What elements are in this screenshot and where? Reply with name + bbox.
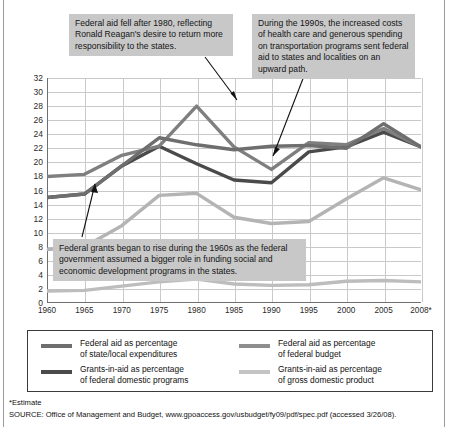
annotation-reagan: Federal aid fell after 1980, reflecting … bbox=[69, 14, 233, 56]
chart-page: PERCENTAGE 02468101214161820222426283032… bbox=[0, 0, 449, 427]
chart-legend: Federal aid as percentage of state/local… bbox=[27, 330, 433, 392]
legend-item: Federal aid as percentage of state/local… bbox=[41, 340, 237, 364]
page-frame-left-rule bbox=[3, 0, 4, 427]
legend-label-line2: of gross domestic product bbox=[278, 375, 374, 385]
y-axis-tick-label: 28 bbox=[9, 102, 43, 111]
y-axis-tick-label: 4 bbox=[9, 271, 43, 280]
y-axis-tick-label: 20 bbox=[9, 158, 43, 167]
y-axis-tick-label: 6 bbox=[9, 257, 43, 266]
legend-label-gdp: Grants-in-aid as percentage of gross dom… bbox=[278, 364, 382, 385]
line-chart-figure: PERCENTAGE 02468101214161820222426283032… bbox=[9, 4, 440, 326]
legend-label-line1: Federal aid as percentage bbox=[80, 338, 177, 348]
legend-label-line2: of federal budget bbox=[278, 349, 341, 359]
legend-label-state-local: Federal aid as percentage of state/local… bbox=[80, 338, 177, 359]
y-axis-tick-label: 18 bbox=[9, 172, 43, 181]
y-axis-tick-labels: 02468101214161820222426283032 bbox=[9, 78, 43, 303]
legend-label-federal-budget: Federal aid as percentage of federal bud… bbox=[278, 338, 375, 359]
legend-item: Grants-in-aid as percentage of gross dom… bbox=[239, 366, 435, 390]
y-axis-tick-label: 30 bbox=[9, 88, 43, 97]
y-axis-tick-label: 22 bbox=[9, 144, 43, 153]
legend-label-line2: of federal domestic programs bbox=[80, 375, 188, 385]
legend-column-left: Federal aid as percentage of state/local… bbox=[41, 340, 237, 392]
legend-label-federal-domestic: Grants-in-aid as percentage of federal d… bbox=[80, 364, 188, 385]
y-axis-tick-label: 32 bbox=[9, 74, 43, 83]
x-axis-tick-labels: 1960196519701975198019851990199520002005… bbox=[47, 306, 421, 320]
y-axis-tick-label: 12 bbox=[9, 214, 43, 223]
page-frame-right-rule bbox=[444, 0, 445, 427]
y-axis-tick-label: 24 bbox=[9, 130, 43, 139]
legend-label-line2: of state/local expenditures bbox=[80, 349, 177, 359]
legend-label-line1: Grants-in-aid as percentage bbox=[278, 364, 382, 374]
y-axis-tick-label: 10 bbox=[9, 228, 43, 237]
footnote-source: SOURCE: Office of Management and Budget,… bbox=[9, 410, 439, 421]
legend-label-line1: Federal aid as percentage bbox=[278, 338, 375, 348]
annotation-sixties: Federal grants began to rise during the … bbox=[53, 239, 306, 281]
y-axis-tick-label: 2 bbox=[9, 285, 43, 294]
x-axis-tick-label: 2008* bbox=[398, 306, 444, 315]
y-axis-tick-label: 26 bbox=[9, 116, 43, 125]
y-axis-tick-label: 14 bbox=[9, 200, 43, 209]
annotation-nineties: During the 1990s, the increased costs of… bbox=[252, 14, 415, 79]
legend-item: Federal aid as percentage of federal bud… bbox=[239, 340, 435, 364]
legend-item: Grants-in-aid as percentage of federal d… bbox=[41, 366, 237, 390]
legend-swatch-state-local bbox=[41, 344, 72, 348]
footnotes: *Estimate SOURCE: Office of Management a… bbox=[9, 398, 439, 420]
legend-swatch-federal-domestic bbox=[41, 370, 72, 374]
legend-swatch-gdp bbox=[239, 370, 270, 374]
legend-label-line1: Grants-in-aid as percentage bbox=[80, 364, 184, 374]
legend-swatch-federal-budget bbox=[239, 344, 270, 348]
y-axis-tick-label: 8 bbox=[9, 243, 43, 252]
gridline-vertical bbox=[422, 78, 423, 302]
footnote-estimate: *Estimate bbox=[9, 398, 439, 409]
y-axis-tick-label: 16 bbox=[9, 186, 43, 195]
legend-column-right: Federal aid as percentage of federal bud… bbox=[239, 340, 435, 392]
